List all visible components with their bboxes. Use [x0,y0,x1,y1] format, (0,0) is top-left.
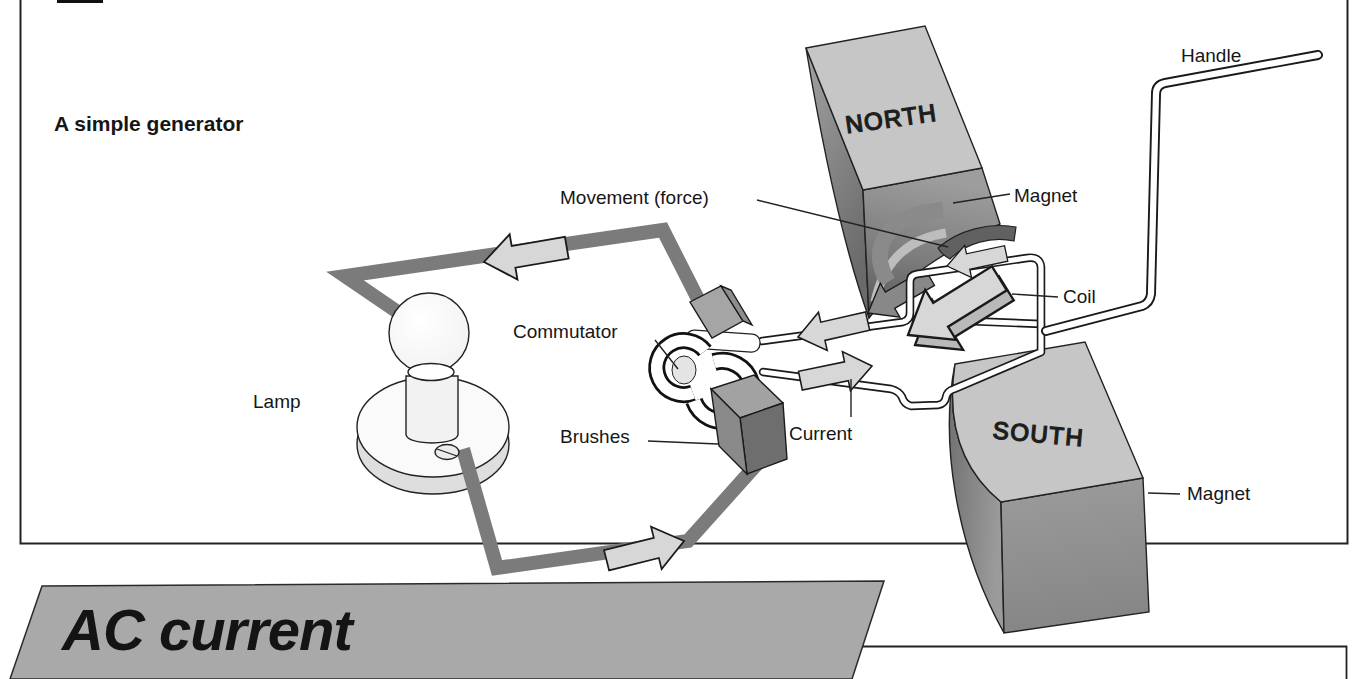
label-brushes: Brushes [560,426,630,447]
wire-top-current-arrow [480,225,571,285]
page-edge-mark [57,0,103,3]
coil-lower-current-arrow [796,346,876,400]
wire-bottom-current-arrow [601,520,689,582]
label-magnet-south: Magnet [1187,483,1251,504]
lamp [357,293,509,494]
coil-upper-current-arrow [794,302,872,356]
section-title: AC current [60,597,355,662]
lamp-collar [408,364,454,381]
label-movement: Movement (force) [560,187,709,208]
commutator-core [672,356,696,384]
lamp-bulb [389,293,469,373]
section-banner: AC current [10,581,884,679]
label-coil: Coil [1063,286,1096,307]
label-handle: Handle [1181,45,1241,66]
label-lamp: Lamp [253,391,301,412]
lower-panel-border [863,647,1347,679]
label-commutator: Commutator [513,321,618,342]
south-magnet: SOUTH [949,342,1149,633]
generator-diagram: AC current NORTH SOUTH [0,0,1365,679]
label-magnet-north: Magnet [1014,185,1078,206]
diagram-caption: A simple generator [54,112,243,135]
lamp-socket [406,376,458,443]
leader-magnet-south [1148,493,1180,494]
leader-coil [1012,294,1058,297]
south-magnet-front-face [1001,478,1149,633]
textbook-page: AC current NORTH SOUTH [0,0,1365,679]
commutator-assembly [657,286,787,474]
label-current: Current [789,423,853,444]
leader-brushes [648,441,718,444]
